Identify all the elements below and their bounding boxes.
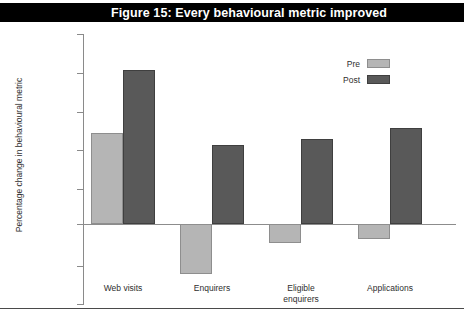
x-category-label-eligible-enquirers: Eligible enquirers	[253, 283, 349, 304]
bar-post-eligible-enquirers[interactable]	[301, 139, 333, 224]
bar-pre-applications[interactable]	[358, 224, 390, 239]
x-category-label-applications: Applications	[342, 283, 438, 294]
bar-pre-eligible-enquirers[interactable]	[269, 224, 301, 243]
x-category-line-1: Enquirers	[164, 283, 260, 294]
x-category-line-1: Web visits	[75, 283, 171, 294]
y-tick-mark	[77, 189, 83, 190]
zero-baseline	[77, 224, 456, 225]
x-category-label-web-visits: Web visits	[75, 283, 171, 294]
x-category-line-2: enquirers	[253, 294, 349, 305]
legend-swatch-post	[367, 75, 390, 84]
bar-pre-web-visits[interactable]	[91, 133, 123, 224]
figure-container: Figure 15: Every behavioural metric impr…	[0, 0, 464, 315]
legend-label-pre: Pre	[347, 59, 360, 69]
figure-title-bar: Figure 15: Every behavioural metric impr…	[0, 3, 464, 22]
x-category-label-enquirers: Enquirers	[164, 283, 260, 294]
x-category-line-1: Applications	[342, 283, 438, 294]
legend-item-pre[interactable]: Pre	[330, 57, 390, 70]
legend-label-post: Post	[343, 75, 360, 85]
y-tick-mark	[77, 34, 83, 35]
y-tick-mark	[77, 150, 83, 151]
bar-post-web-visits[interactable]	[123, 70, 155, 224]
y-axis-spine	[83, 34, 84, 305]
bar-post-applications[interactable]	[390, 128, 422, 224]
page-title: Figure 15: Every behavioural metric impr…	[77, 6, 387, 20]
legend-swatch-pre	[367, 59, 390, 68]
bar-pre-enquirers[interactable]	[180, 224, 212, 274]
bar-post-enquirers[interactable]	[212, 145, 244, 224]
x-category-line-1: Eligible	[253, 283, 349, 294]
legend-item-post[interactable]: Post	[330, 73, 390, 86]
bottom-divider	[0, 308, 464, 309]
chart-legend: Pre Post	[330, 57, 390, 89]
y-tick-mark	[77, 304, 83, 305]
y-axis-title: Percentage change in behavioural metric	[14, 60, 24, 250]
y-tick-mark	[77, 73, 83, 74]
y-tick-mark	[77, 112, 83, 113]
y-tick-mark	[77, 266, 83, 267]
